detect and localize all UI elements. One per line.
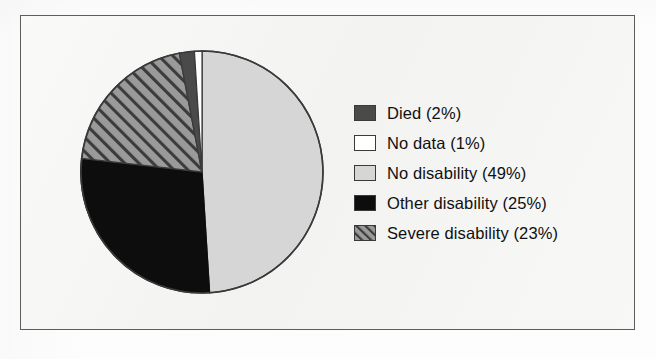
legend-item-died: Died (2%) [354,98,624,128]
legend-label-no-disability: No disability (49%) [387,165,526,182]
legend-swatch-no-data [354,135,376,151]
legend-item-other-disability: Other disability (25%) [354,188,624,218]
legend-swatch-other-disability [354,195,376,211]
legend-label-other-disability: Other disability (25%) [387,195,547,212]
legend-label-severe-disability: Severe disability (23%) [387,225,558,242]
chart-legend: Died (2%) No data (1%) No disability (49… [354,98,624,248]
legend-swatch-died [354,105,376,121]
legend-item-no-disability: No disability (49%) [354,158,624,188]
pie-slice-other-disability [81,158,210,293]
legend-label-no-data: No data (1%) [387,135,485,152]
pie-slice-no-disability [202,51,323,293]
pie-chart [79,49,325,295]
legend-swatch-severe-disability [354,225,376,241]
legend-item-no-data: No data (1%) [354,128,624,158]
chart-frame: Died (2%) No data (1%) No disability (49… [20,15,635,330]
legend-swatch-no-disability [354,165,376,181]
legend-label-died: Died (2%) [387,105,461,122]
legend-item-severe-disability: Severe disability (23%) [354,218,624,248]
